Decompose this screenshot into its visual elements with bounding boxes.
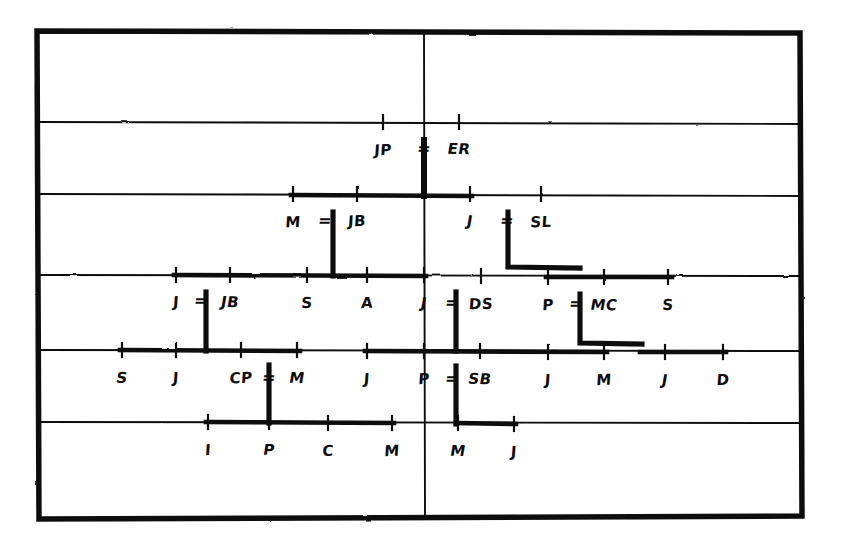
node-label-gen4-10: D <box>716 371 730 389</box>
node-label-gen1-1: ER <box>446 140 472 159</box>
node-label-gen2-0: M <box>285 213 302 231</box>
node-label-gen5-2: C <box>322 442 335 460</box>
union-symbol-gen3-1: = <box>444 293 460 312</box>
descent-chart-drawing <box>0 0 841 555</box>
union-symbol-gen3-0: = <box>193 291 209 310</box>
gen5-sibship-bar-left <box>206 422 394 423</box>
gen4-sibship-bar-right <box>365 351 607 352</box>
node-label-gen3-8: S <box>662 296 675 314</box>
node-label-gen3-7: MC <box>589 296 619 315</box>
node-label-gen5-4: M <box>449 442 467 460</box>
node-label-gen4-3: M <box>288 369 306 387</box>
union-symbol-gen1-0: = <box>416 139 432 158</box>
node-label-gen4-1: J <box>172 369 179 387</box>
union-symbol-gen3-2: = <box>568 294 584 313</box>
chart-canvas: JP ER = M JB J SL = = J JB S A J DS P MC… <box>0 0 841 555</box>
union-symbol-gen4-1: = <box>444 369 460 388</box>
node-label-gen4-8: M <box>596 371 613 390</box>
node-label-gen4-2: CP <box>229 368 253 387</box>
node-label-gen3-0: J <box>172 293 179 311</box>
node-label-gen3-6: P <box>542 296 555 315</box>
node-label-gen5-5: J <box>510 443 517 461</box>
generation-5-group <box>206 415 516 431</box>
node-label-gen1-0: JP <box>374 141 393 160</box>
node-label-gen4-5: P <box>418 370 431 389</box>
node-label-gen2-3: SL <box>530 213 553 231</box>
union-symbol-gen2-0: = <box>317 211 333 230</box>
union-symbol-gen4-0: = <box>261 368 277 387</box>
node-label-gen5-0: I <box>204 441 211 459</box>
node-label-gen3-1: JB <box>219 293 240 311</box>
node-label-gen3-3: A <box>360 294 373 313</box>
node-label-gen5-3: M <box>384 442 401 461</box>
generation-2-group <box>291 187 580 276</box>
union-symbol-gen2-1: = <box>499 211 515 230</box>
node-label-gen4-7: J <box>544 371 551 389</box>
node-label-gen2-1: JB <box>347 212 366 231</box>
gen4-sibship-bar-left <box>120 350 300 351</box>
node-label-gen4-6: SB <box>467 370 493 389</box>
gen2-sibship-bar <box>291 195 472 196</box>
gen3-sibship-bar-left <box>174 275 426 276</box>
node-label-gen4-4: J <box>363 370 370 388</box>
node-label-gen3-5: DS <box>468 295 494 313</box>
gen5-sibship-bar-right <box>456 423 516 424</box>
node-label-gen3-2: S <box>301 294 314 312</box>
